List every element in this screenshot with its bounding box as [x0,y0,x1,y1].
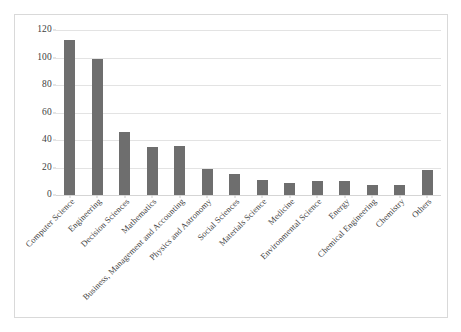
bar[interactable] [119,132,130,195]
bar[interactable] [64,40,75,195]
bar[interactable] [284,183,295,195]
y-tick-label: 0 [47,190,52,200]
bar-slot [249,30,277,195]
bar-slot [139,30,167,195]
y-tick-label: 60 [42,108,52,118]
bar-slot [221,30,249,195]
x-tick-label: Chemistry [374,197,406,229]
bar[interactable] [367,185,378,195]
bar[interactable] [257,180,268,195]
bar[interactable] [174,146,185,196]
plot-area [56,30,441,195]
y-tick-label: 40 [42,135,52,145]
bar[interactable] [312,181,323,195]
x-tick-label: Energy [327,197,351,221]
y-tick-label: 120 [37,25,52,35]
bar-slot [359,30,387,195]
bar[interactable] [202,169,213,195]
bar[interactable] [147,147,158,195]
bar-slot [276,30,304,195]
bar-slot [194,30,222,195]
y-tick-label: 20 [42,163,52,173]
figure-frame: 020406080100120 Computer ScienceEngineer… [14,14,448,318]
bar-slot [331,30,359,195]
bar-slot [166,30,194,195]
bar[interactable] [422,170,433,195]
chart-screenshot: { "figure": { "bar_color": "#6e6e6e", "g… [0,0,461,332]
bar-slot [386,30,414,195]
bar[interactable] [339,181,350,195]
bar-slot [56,30,84,195]
bar-slot [84,30,112,195]
bar-slot [111,30,139,195]
x-tick-label: Others [411,197,434,220]
bar[interactable] [394,185,405,195]
bar[interactable] [92,59,103,195]
y-tick-label: 80 [42,80,52,90]
x-axis-tick-labels: Computer ScienceEngineeringDecision Scie… [56,197,441,315]
bar-slot [304,30,332,195]
gridline-0 [56,195,441,196]
bar[interactable] [229,174,240,195]
y-axis-tick-labels: 020406080100120 [29,30,56,195]
bar-series [56,30,441,195]
y-tick-label: 100 [37,53,52,63]
bar-slot [414,30,442,195]
